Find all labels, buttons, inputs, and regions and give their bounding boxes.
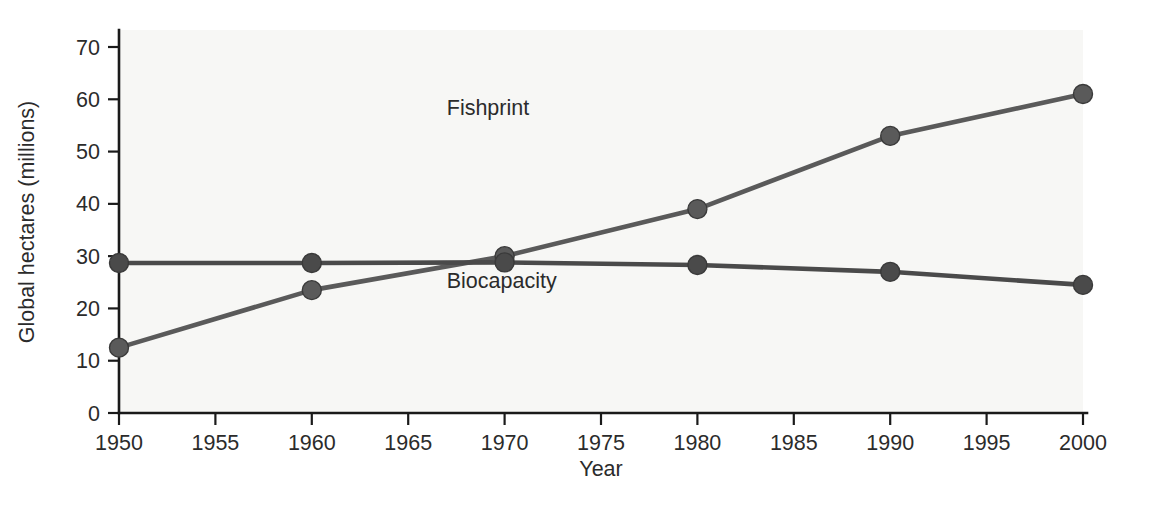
x-axis-ticks <box>119 413 1083 425</box>
series-label-fishprint: Fishprint <box>447 96 529 120</box>
data-point-biocapacity-1980 <box>688 256 707 275</box>
y-axis-ticks <box>108 47 119 413</box>
x-axis-title: Year <box>579 457 622 481</box>
y-tick-label-0: 0 <box>88 402 100 426</box>
data-point-biocapacity-1990 <box>881 262 900 281</box>
y-tick-label-40: 40 <box>76 192 100 216</box>
x-axis-tick-labels: 1950195519601965197019751980198519901995… <box>95 431 1107 455</box>
data-point-fishprint-1990 <box>881 126 900 145</box>
y-tick-label-60: 60 <box>76 88 100 112</box>
y-tick-label-70: 70 <box>76 36 100 60</box>
x-tick-label-1995: 1995 <box>963 431 1011 455</box>
x-tick-label-1990: 1990 <box>866 431 914 455</box>
data-point-biocapacity-2000 <box>1074 275 1093 294</box>
x-tick-label-1985: 1985 <box>770 431 818 455</box>
x-tick-label-1970: 1970 <box>481 431 529 455</box>
data-point-fishprint-1950 <box>110 338 129 357</box>
y-tick-label-50: 50 <box>76 140 100 164</box>
chart-page: 010203040506070 195019551960196519701975… <box>0 0 1149 515</box>
y-tick-label-10: 10 <box>76 349 100 373</box>
x-tick-label-1950: 1950 <box>95 431 143 455</box>
data-point-biocapacity-1960 <box>302 253 321 272</box>
x-tick-label-1980: 1980 <box>673 431 721 455</box>
x-tick-label-1965: 1965 <box>384 431 432 455</box>
x-tick-label-2000: 2000 <box>1059 431 1107 455</box>
line-chart: 010203040506070 195019551960196519701975… <box>0 0 1149 515</box>
data-point-fishprint-1980 <box>688 200 707 219</box>
data-point-fishprint-2000 <box>1074 85 1093 104</box>
y-tick-label-30: 30 <box>76 245 100 269</box>
data-point-fishprint-1960 <box>302 281 321 300</box>
data-point-biocapacity-1950 <box>110 253 129 272</box>
y-tick-label-20: 20 <box>76 297 100 321</box>
plot-background <box>119 30 1083 413</box>
y-axis-tick-labels: 010203040506070 <box>76 36 100 426</box>
x-tick-label-1975: 1975 <box>577 431 625 455</box>
x-tick-label-1960: 1960 <box>288 431 336 455</box>
y-axis-title: Global hectares (millions) <box>15 101 39 344</box>
series-label-biocapacity: Biocapacity <box>447 269 557 293</box>
x-tick-label-1955: 1955 <box>191 431 239 455</box>
